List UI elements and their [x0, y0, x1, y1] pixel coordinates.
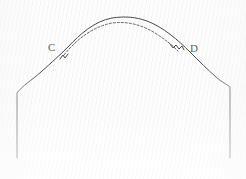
sleeve-cap-diagram: C D [0, 0, 246, 179]
label-c: C [48, 42, 56, 53]
label-d: D [190, 43, 198, 54]
sleeve-cap-stitch-line [64, 22, 178, 55]
sleeve-cap-outline [17, 17, 230, 158]
pattern-drawing [0, 0, 246, 179]
